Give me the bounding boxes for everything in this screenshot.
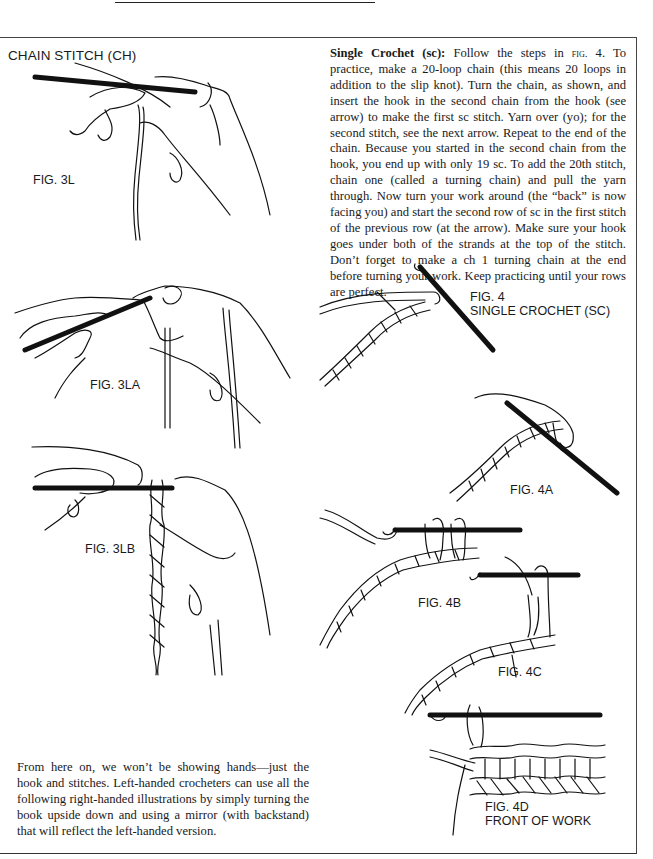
section-heading-chain-stitch: CHAIN STITCH (CH) <box>8 48 136 63</box>
fig-4c-illustration <box>400 555 590 715</box>
stitch-row <box>470 744 605 795</box>
left-handed-note: From here on, we won’t be showing hands—… <box>17 760 309 840</box>
chain-strand <box>150 480 165 675</box>
paragraph-text: Follow the steps in <box>445 46 572 60</box>
fig-3l-label: FIG. 3L <box>33 173 75 187</box>
top-rule <box>115 2 375 3</box>
single-crochet-title: Single Crochet (sc): <box>330 46 445 60</box>
fig-4-label: FIG. 4 SINGLE CROCHET (SC) <box>470 290 610 318</box>
fig-3lb-label: FIG. 3LB <box>85 542 135 556</box>
fig-4-illustration <box>315 262 515 392</box>
fig-3la-label: FIG. 3LA <box>90 378 140 392</box>
fig-4c-label: FIG. 4C <box>498 665 542 679</box>
paragraph-text: 4. To practice, make a 20-loop chain (th… <box>330 46 626 299</box>
chain-strand <box>320 302 430 386</box>
fig-4a-label: FIG. 4A <box>510 483 553 497</box>
fig-3l-illustration <box>30 65 280 240</box>
fig-4d-label: FIG. 4D FRONT OF WORK <box>485 800 591 828</box>
fig-3la-illustration <box>15 278 295 448</box>
fig-reference: fig. <box>572 47 588 59</box>
fig-3lb-illustration <box>30 435 280 675</box>
